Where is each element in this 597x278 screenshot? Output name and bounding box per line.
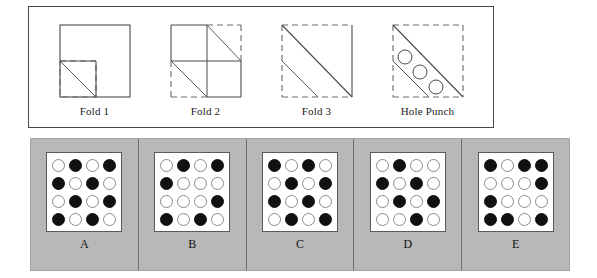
- hole-open-r1c3: [86, 159, 99, 172]
- answer-option-label: E: [512, 237, 519, 252]
- answer-option-label: B: [188, 237, 196, 252]
- hole-open-r2c1: [268, 177, 281, 190]
- hole-filled-r1c2: [69, 159, 82, 172]
- hole-filled-r3c4: [211, 195, 224, 208]
- hole-filled-r1c3: [302, 159, 315, 172]
- hole-open-r3c3: [410, 195, 423, 208]
- hole-open-r3c2: [501, 195, 514, 208]
- hole-open-r1c4: [427, 159, 440, 172]
- hole-filled-r2c1: [160, 177, 173, 190]
- hole-filled-r3c2: [69, 195, 82, 208]
- hole-filled-r4c2: [285, 213, 298, 226]
- hole-open-r4c4: [211, 213, 224, 226]
- hole-filled-r3c1: [484, 195, 497, 208]
- hole-open-r2c3: [518, 177, 531, 190]
- hole-filled-r1c2: [393, 159, 406, 172]
- hole-filled-r3c4: [103, 195, 116, 208]
- hole-open-r3c1: [52, 195, 65, 208]
- hole-filled-r2c1: [52, 177, 65, 190]
- hole-open-r4c2: [393, 213, 406, 226]
- answer-option-d[interactable]: D: [353, 139, 461, 270]
- fold-sequence-panel: Fold 1 Fold 2: [28, 6, 494, 128]
- hole-filled-r4c3: [194, 213, 207, 226]
- answer-option-a[interactable]: A: [31, 139, 138, 270]
- hole-open-r3c3: [194, 195, 207, 208]
- hole-filled-r1c2: [177, 159, 190, 172]
- hole-filled-r2c1: [376, 177, 389, 190]
- punch-pattern-grid: [370, 152, 446, 232]
- hole-open-r4c4: [103, 213, 116, 226]
- hole-open-r2c3: [194, 177, 207, 190]
- hole-filled-r2c2: [285, 177, 298, 190]
- hole-open-r3c4: [319, 195, 332, 208]
- hole-open-r2c3: [302, 177, 315, 190]
- hole-filled-r1c4: [535, 159, 548, 172]
- hole-open-r4c2: [69, 213, 82, 226]
- hole-filled-r4c1: [484, 213, 497, 226]
- hole-filled-r2c3: [410, 177, 423, 190]
- hole-open-r1c2: [501, 159, 514, 172]
- hole-open-r1c3: [194, 159, 207, 172]
- fold-2-figure: [165, 21, 247, 103]
- fold-3-caption: Fold 3: [302, 105, 332, 117]
- punch-pattern-grid: [46, 152, 122, 232]
- hole-filled-r1c4: [103, 159, 116, 172]
- fold-1-figure: [54, 21, 136, 103]
- punch-pattern-grid: [154, 152, 230, 232]
- hole-filled-r3c2: [393, 195, 406, 208]
- hole-open-r2c2: [177, 177, 190, 190]
- fold-steps-row: Fold 1 Fold 2: [29, 7, 493, 127]
- hole-open-r2c4: [103, 177, 116, 190]
- hole-filled-r4c3: [410, 213, 423, 226]
- hole-open-r1c3: [410, 159, 423, 172]
- hole-open-r3c3: [86, 195, 99, 208]
- hole-filled-r2c4: [319, 177, 332, 190]
- hole-filled-r1c3: [518, 159, 531, 172]
- punched-hole: [398, 50, 412, 64]
- hole-punch-caption: Hole Punch: [401, 105, 455, 117]
- hole-punch-figure: [387, 21, 469, 103]
- hole-filled-r1c4: [211, 159, 224, 172]
- fold-step-1: Fold 1: [39, 21, 150, 117]
- hole-filled-r3c1: [268, 195, 281, 208]
- hole-filled-r3c4: [427, 195, 440, 208]
- answer-option-e[interactable]: E: [461, 139, 569, 270]
- hole-open-r3c2: [285, 195, 298, 208]
- hole-open-r4c4: [427, 213, 440, 226]
- punched-hole: [413, 65, 427, 79]
- hole-filled-r4c4: [319, 213, 332, 226]
- hole-open-r4c1: [268, 213, 281, 226]
- hole-filled-r3c3: [302, 195, 315, 208]
- fold-3-figure: [276, 21, 358, 103]
- hole-open-r2c2: [501, 177, 514, 190]
- answer-option-b[interactable]: B: [138, 139, 246, 270]
- hole-filled-r1c1: [484, 159, 497, 172]
- answer-option-label: C: [296, 237, 304, 252]
- hole-open-r2c1: [484, 177, 497, 190]
- answer-option-c[interactable]: C: [246, 139, 354, 270]
- hole-filled-r4c4: [535, 213, 548, 226]
- hole-open-r4c2: [177, 213, 190, 226]
- hole-open-r3c4: [535, 195, 548, 208]
- hole-open-r1c1: [376, 159, 389, 172]
- hole-filled-r1c1: [268, 159, 281, 172]
- hole-open-r4c1: [376, 213, 389, 226]
- hole-open-r1c4: [319, 159, 332, 172]
- fold-step-3: Fold 3: [261, 21, 372, 117]
- hole-open-r1c2: [285, 159, 298, 172]
- hole-filled-r4c2: [501, 213, 514, 226]
- hole-filled-r4c1: [52, 213, 65, 226]
- hole-open-r2c4: [211, 177, 224, 190]
- hole-open-r1c1: [52, 159, 65, 172]
- fold-2-caption: Fold 2: [191, 105, 221, 117]
- answer-options-panel: ABCDE: [30, 138, 570, 271]
- hole-filled-r4c3: [86, 213, 99, 226]
- hole-open-r3c1: [376, 195, 389, 208]
- hole-open-r3c1: [160, 195, 173, 208]
- hole-open-r1c1: [160, 159, 173, 172]
- hole-open-r4c3: [518, 213, 531, 226]
- punch-pattern-grid: [262, 152, 338, 232]
- answer-option-label: A: [80, 237, 89, 252]
- hole-filled-r2c4: [535, 177, 548, 190]
- punch-pattern-grid: [478, 152, 554, 232]
